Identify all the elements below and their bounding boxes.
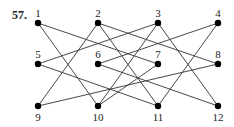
vertex-label-8: 8 [215,48,221,60]
vertex-9 [35,103,41,109]
edge-5-11 [38,64,158,106]
graph-nodes: 123456789101112 [35,7,224,123]
vertex-label-10: 10 [93,111,105,123]
graph-edges [38,23,218,106]
vertex-label-12: 12 [213,111,224,123]
vertex-label-7: 7 [155,48,161,60]
vertex-label-6: 6 [95,48,101,60]
vertex-label-11: 11 [153,111,164,123]
vertex-8 [215,61,221,67]
vertex-3 [155,20,161,26]
vertex-label-9: 9 [35,111,41,123]
vertex-5 [35,61,41,67]
vertex-10 [95,103,101,109]
vertex-label-3: 3 [155,7,161,19]
vertex-label-2: 2 [95,7,101,19]
vertex-7 [155,61,161,67]
edge-6-12 [98,64,218,106]
vertex-12 [215,103,221,109]
vertex-4 [215,20,221,26]
edge-8-9 [38,64,218,106]
vertex-2 [95,20,101,26]
vertex-label-4: 4 [215,7,221,19]
vertex-1 [35,20,41,26]
vertex-label-1: 1 [35,7,41,19]
graph-diagram: 123456789101112 [0,0,234,127]
vertex-6 [95,61,101,67]
vertex-label-5: 5 [35,48,41,60]
vertex-11 [155,103,161,109]
